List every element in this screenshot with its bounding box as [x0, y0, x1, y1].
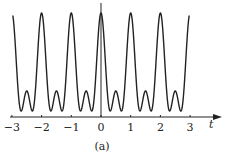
x-axis-arrow-icon [213, 114, 222, 120]
x-tick-label: 1 [127, 121, 134, 134]
x-tick-label: −1 [63, 121, 79, 134]
x-tick-label: −3 [4, 121, 20, 134]
x-axis-label: t [209, 118, 214, 131]
x-axis-tick-labels: −3−2−10123 [4, 121, 194, 134]
figure-caption: (a) [94, 140, 109, 153]
x-tick-label: 3 [187, 121, 194, 134]
x-tick-label: −2 [33, 121, 49, 134]
x-tick-label: 0 [98, 121, 105, 134]
waveform-figure: −3−2−10123 t (a) [0, 0, 227, 158]
x-tick-label: 2 [157, 121, 164, 134]
